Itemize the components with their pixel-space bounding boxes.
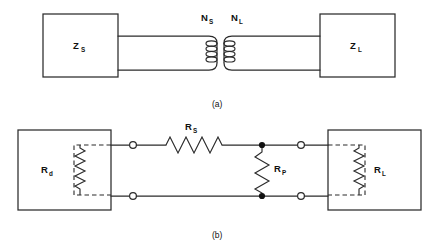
load-box-label: Z	[350, 40, 356, 51]
primary-coil-loop-2	[206, 46, 217, 51]
figure-canvas: Z S N S N L	[0, 0, 439, 247]
wire-load-top	[224, 36, 320, 43]
primary-coil-loop-3	[206, 52, 217, 57]
secondary-winding-label: N L	[231, 12, 243, 25]
secondary-coil-loop-2	[224, 46, 235, 51]
secondary-coil-loop-4	[224, 57, 235, 62]
source-resistance-label-subscript: d	[49, 170, 53, 177]
terminal-bottom-right[interactable]	[298, 193, 305, 200]
terminal-top-right[interactable]	[298, 142, 305, 149]
series-resistor-label: R	[185, 121, 192, 132]
load-box-label-subscript: L	[358, 46, 362, 53]
shunt-resistor-zigzag	[255, 148, 269, 196]
panel-b: R d R S R P	[18, 121, 421, 240]
wire-source-top	[118, 36, 217, 43]
secondary-coil-loop-3	[224, 52, 235, 57]
secondary-label-symbol: N	[231, 12, 238, 23]
junction-dot-bottom	[259, 193, 265, 199]
source-internal-resistor	[75, 145, 85, 195]
load-impedance-box: Z L	[320, 14, 395, 77]
junction-dot-top	[259, 142, 265, 148]
source-box-label: Z	[73, 40, 79, 51]
primary-winding-coil	[206, 41, 217, 63]
wire-source-bottom	[118, 63, 217, 70]
source-impedance-box: Z S	[43, 14, 118, 77]
primary-label-subscript: S	[209, 18, 213, 25]
primary-coil-loop-4	[206, 57, 217, 62]
terminal-top-left[interactable]	[130, 142, 137, 149]
panel-b-caption: (b)	[212, 230, 223, 240]
series-resistor-label-subscript: S	[193, 127, 197, 134]
secondary-coil-loop-1	[224, 41, 235, 46]
series-resistor: R S	[166, 121, 222, 153]
source-dashed-bracket	[74, 145, 111, 195]
source-resistance-box: R d	[18, 130, 111, 210]
load-resistance-box: R L	[328, 130, 421, 210]
shunt-resistor-label: R	[274, 163, 281, 174]
shunt-resistor-label-subscript: P	[282, 169, 286, 176]
source-box-label-subscript: S	[81, 46, 85, 53]
source-resistance-label: R	[41, 164, 48, 175]
panel-a-caption: (a)	[212, 99, 223, 109]
load-internal-resistor	[354, 145, 364, 195]
primary-label-symbol: N	[201, 12, 208, 23]
source-resistance-box-outline	[18, 130, 111, 210]
series-resistor-zigzag	[166, 137, 222, 153]
primary-winding-label: N S	[201, 12, 213, 25]
secondary-label-subscript: L	[239, 18, 243, 25]
load-dashed-bracket	[328, 145, 365, 195]
terminal-bottom-left[interactable]	[130, 193, 137, 200]
secondary-winding-coil	[224, 41, 235, 63]
wire-load-bottom	[224, 63, 320, 70]
load-resistance-label: R	[374, 164, 381, 175]
panel-a: Z S N S N L	[43, 12, 395, 109]
load-resistance-label-subscript: L	[382, 170, 386, 177]
primary-coil-loop-1	[206, 41, 217, 46]
shunt-resistor: R P	[255, 148, 286, 196]
